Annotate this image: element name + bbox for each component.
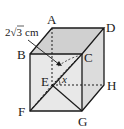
- vertex-label-F: F: [18, 104, 25, 119]
- vertex-label-H: H: [107, 78, 116, 93]
- vertex-label-B: B: [17, 47, 26, 62]
- vertex-label-G: G: [78, 114, 87, 129]
- vertex-label-A: A: [47, 12, 57, 27]
- dimension-label: 2√3cm: [5, 26, 39, 38]
- angle-label-x: x: [61, 73, 67, 85]
- cube-diagram: A D B C E H F G x 2√3cm: [0, 0, 124, 129]
- dimension-unit: cm: [25, 26, 39, 38]
- vertex-label-C: C: [84, 50, 93, 65]
- dimension-radicand: 3: [17, 26, 23, 38]
- vertex-label-E: E: [41, 74, 49, 89]
- vertex-label-D: D: [106, 20, 115, 35]
